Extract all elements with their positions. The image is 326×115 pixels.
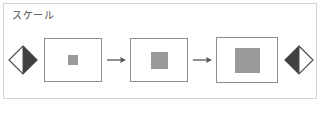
scale-step-2-frame[interactable] — [130, 38, 188, 82]
diamond-half-right-filled-icon — [8, 45, 38, 75]
arrow-2 — [191, 52, 213, 68]
scale-step-3-square — [235, 48, 260, 73]
arrow-1 — [105, 52, 127, 68]
scale-settings-panel: スケール — [3, 3, 317, 99]
scale-progression-row — [4, 30, 318, 90]
arrow-right-icon — [105, 52, 127, 68]
arrow-right-icon — [191, 52, 213, 68]
diamond-half-left-filled-icon — [284, 45, 314, 75]
panel-title: スケール — [12, 10, 54, 22]
scale-step-1-frame[interactable] — [44, 38, 102, 82]
scale-down-handle[interactable] — [8, 45, 38, 75]
scale-step-3-frame[interactable] — [216, 37, 278, 83]
scale-up-handle[interactable] — [284, 45, 314, 75]
scale-step-1-square — [68, 55, 78, 65]
scale-step-2-square — [151, 52, 168, 69]
